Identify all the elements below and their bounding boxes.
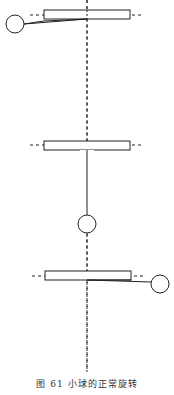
figure-caption: 图 61 小球的正常旋转 [0,377,174,390]
panel-2 [30,141,144,233]
panel-1 [6,10,144,33]
ball-3 [151,275,169,293]
panel-3 [32,271,169,293]
diagram-canvas [0,0,174,395]
ball-1 [6,15,24,33]
bar-3 [45,271,131,280]
ball-2 [78,215,96,233]
bar-2 [44,141,130,150]
